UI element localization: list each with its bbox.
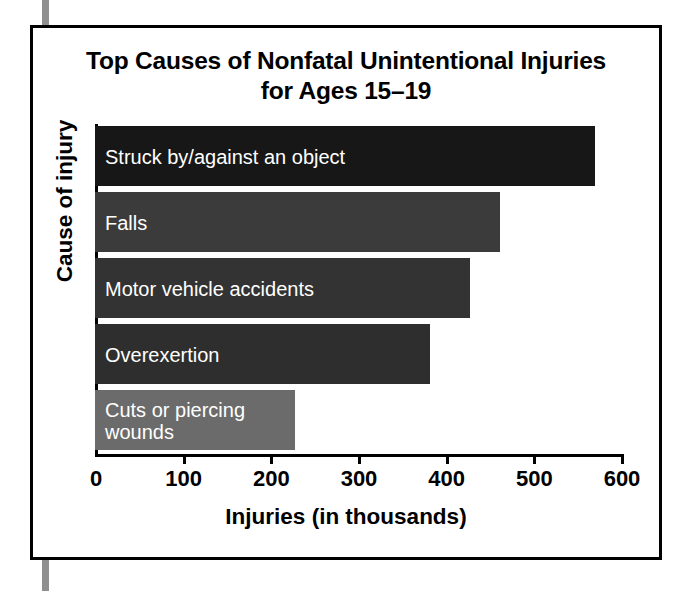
bar[interactable] (95, 192, 500, 252)
x-axis-tick-label: 500 (516, 466, 553, 492)
x-axis-tick (183, 454, 186, 464)
bar-row: Struck by/against an object (95, 124, 621, 190)
chart-title-line-1: Top Causes of Nonfatal Unintentional Inj… (33, 46, 659, 76)
bar-row: Motor vehicle accidents (95, 256, 621, 322)
figure-frame: Top Causes of Nonfatal Unintentional Inj… (30, 25, 662, 560)
x-axis-tick (270, 454, 273, 464)
y-axis-title: Cause of injury (52, 101, 78, 301)
bar-row: Cuts or piercing wounds (95, 388, 621, 454)
x-axis-tick-label: 100 (165, 466, 202, 492)
x-axis-tick (358, 454, 361, 464)
x-axis-tick-label: 200 (253, 466, 290, 492)
page-gutter-rule-top (42, 0, 49, 26)
bar-row: Falls (95, 190, 621, 256)
bar-row: Overexertion (95, 322, 621, 388)
chart-title: Top Causes of Nonfatal Unintentional Inj… (33, 46, 659, 106)
bar[interactable] (95, 258, 470, 318)
x-axis-tick (533, 454, 536, 464)
bar[interactable] (95, 126, 595, 186)
page-gutter-rule-bottom (42, 560, 49, 591)
bar[interactable] (95, 324, 430, 384)
chart-title-line-2: for Ages 15–19 (33, 76, 659, 106)
x-axis-tick-label: 400 (428, 466, 465, 492)
x-axis-title: Injuries (in thousands) (33, 504, 659, 530)
x-axis-tick-label: 300 (341, 466, 378, 492)
x-axis-tick-label: 0 (90, 466, 102, 492)
x-axis-tick (446, 454, 449, 464)
x-axis-tick-label: 600 (604, 466, 641, 492)
bar[interactable] (95, 390, 295, 450)
x-axis-tick (621, 454, 624, 464)
plot-area: Struck by/against an objectFallsMotor ve… (95, 124, 621, 454)
